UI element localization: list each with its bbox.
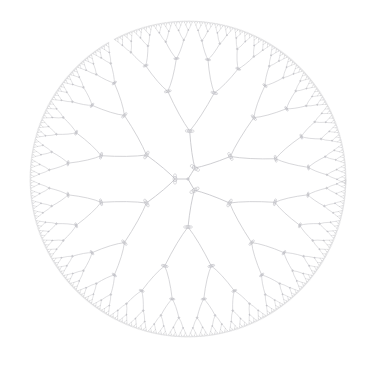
tree-edge: [344, 185, 345, 186]
tree-edge: [56, 258, 62, 259]
tree-edge: [102, 308, 104, 309]
tree-edge: [249, 320, 251, 322]
tree-edge: [331, 222, 335, 226]
tree-edge: [212, 326, 215, 331]
tree-edge: [196, 23, 197, 25]
tree-edge: [153, 25, 154, 26]
tree-edge: [68, 279, 71, 280]
tree-edge: [54, 258, 55, 260]
tree-edge: [49, 105, 50, 106]
tree-edge: [49, 106, 51, 108]
tree-edge: [245, 34, 247, 36]
tree-edge: [337, 182, 342, 184]
tree-edge: [265, 295, 275, 301]
tree-edge: [166, 24, 167, 27]
tree-edge: [52, 102, 54, 104]
tree-edge: [320, 98, 321, 100]
tree-edge: [275, 300, 276, 306]
tree-edge: [120, 318, 122, 320]
tree-edge: [197, 22, 198, 23]
tree-edge: [56, 224, 76, 226]
tree-edge: [320, 224, 328, 232]
tree-edge: [159, 33, 165, 42]
tree-edge: [324, 256, 325, 257]
tree-edge: [265, 66, 269, 85]
tree-edge: [295, 290, 298, 291]
tree-edge: [293, 271, 297, 281]
tree-edge: [161, 25, 162, 28]
tree-edge: [71, 282, 74, 283]
tree-edge: [292, 62, 293, 65]
tree-edge: [340, 152, 343, 153]
tree-edge: [129, 33, 130, 34]
tree-edge: [191, 335, 192, 336]
tree-edge: [186, 25, 189, 30]
tree-edge: [197, 22, 198, 23]
tree-edge: [206, 24, 208, 26]
tree-edge: [36, 139, 37, 140]
tree-edge: [118, 42, 122, 45]
tree-edge: [86, 296, 89, 297]
tree-edge: [200, 335, 201, 336]
tree-edge: [122, 36, 123, 37]
tree-edge: [342, 176, 344, 177]
tree-edge: [309, 275, 312, 276]
tree-edge: [342, 208, 343, 209]
tree-edge: [337, 179, 342, 182]
tree-edge: [32, 192, 34, 193]
tree-edge: [83, 87, 92, 105]
tree-edge: [40, 164, 50, 170]
tree-edge: [169, 26, 171, 31]
tree-edge: [199, 335, 200, 336]
tree-edge: [31, 182, 32, 183]
tree-edge: [54, 96, 55, 97]
tree-edge: [146, 46, 148, 66]
tree-edge: [276, 51, 278, 52]
tree-edge: [46, 247, 47, 248]
tree-edge: [191, 23, 192, 25]
tree-edge: [315, 258, 321, 259]
tree-edge: [146, 66, 168, 92]
tree-edge: [235, 326, 237, 328]
tree-edge: [315, 113, 322, 122]
tree-edge: [31, 169, 32, 170]
tree-edge: [306, 105, 317, 106]
tree-edge: [31, 175, 32, 176]
tree-edge: [39, 213, 43, 217]
tree-edge: [254, 318, 256, 320]
tree-edge: [337, 184, 342, 187]
tree-edge: [240, 32, 242, 34]
tree-edge: [308, 157, 325, 168]
tree-edge: [126, 323, 127, 324]
tree-edge: [215, 331, 216, 334]
tree-edge: [327, 111, 329, 113]
tree-edge: [201, 327, 203, 332]
tree-edge: [93, 64, 96, 75]
tree-edge: [41, 125, 43, 127]
tree-edge: [100, 300, 101, 306]
tree-edge: [165, 266, 173, 299]
tree-edge: [297, 281, 302, 283]
tree-edge: [190, 93, 215, 131]
tree-edge: [344, 196, 345, 197]
tree-edge: [98, 306, 100, 307]
tree-edge: [83, 253, 92, 271]
tree-edge: [293, 271, 304, 274]
tree-edge: [200, 23, 201, 26]
tree-edge: [192, 22, 193, 23]
tree-edge: [156, 28, 159, 32]
tree-edge: [61, 266, 67, 267]
tree-edge: [194, 335, 195, 336]
tree-edge: [211, 24, 213, 26]
tree-edge: [321, 131, 329, 139]
tree-edge: [192, 335, 193, 336]
tree-edge: [57, 109, 64, 118]
tree-edge: [247, 324, 248, 325]
tree-edge: [148, 35, 150, 46]
tree-edge: [340, 202, 342, 204]
tree-edge: [92, 56, 93, 59]
tree-edge: [173, 327, 175, 332]
tree-edge: [215, 333, 216, 334]
tree-edge: [328, 108, 329, 109]
tree-edge: [51, 101, 52, 102]
